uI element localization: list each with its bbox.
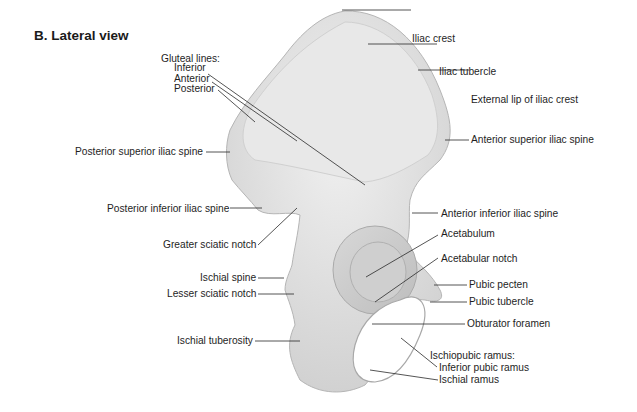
label-acetabular-notch: Acetabular notch [441, 253, 517, 265]
label-ischiopubic-ramus-heading: Ischiopubic ramus: [430, 350, 515, 362]
label-pubic-pecten: Pubic pecten [469, 279, 528, 291]
label-obturator-foramen: Obturator foramen [467, 318, 550, 330]
label-ischial-spine: Ischial spine [200, 272, 256, 284]
label-gluteal-posterior: Posterior [174, 83, 215, 95]
label-asis: Anterior superior iliac spine [471, 134, 594, 146]
label-ischial-ramus: Ischial ramus [439, 374, 499, 386]
label-greater-sciatic-notch: Greater sciatic notch [163, 239, 256, 251]
figure-title: B. Lateral view [34, 28, 129, 43]
label-pubic-tubercle: Pubic tubercle [469, 296, 534, 308]
label-iliac-tubercle: Iliac tubercle [439, 66, 496, 78]
label-psis: Posterior superior iliac spine [75, 146, 203, 158]
label-lesser-sciatic-notch: Lesser sciatic notch [167, 288, 256, 300]
label-acetabulum: Acetabulum [441, 228, 495, 240]
label-external-lip: External lip of iliac crest [471, 94, 578, 106]
label-inferior-pubic-ramus: Inferior pubic ramus [439, 362, 529, 374]
hip-bone-illustration [0, 0, 637, 412]
label-iliac-crest: Iliac crest [412, 33, 455, 45]
label-aiis: Anterior inferior iliac spine [441, 208, 558, 220]
label-piis: Posterior inferior iliac spine [107, 203, 229, 215]
label-ischial-tuberosity: Ischial tuberosity [177, 335, 253, 347]
